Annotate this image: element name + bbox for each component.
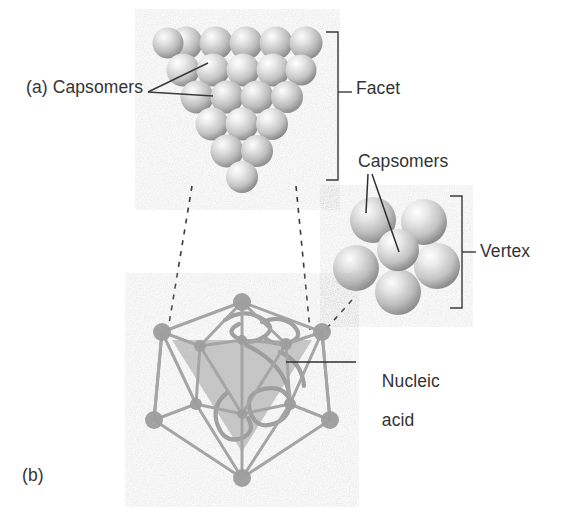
facet-capsomer-triangle [153, 27, 323, 194]
capsomers-facet-label: (a) Capsomers [26, 78, 143, 98]
nucleic-acid-label-line2: acid [382, 410, 415, 430]
facet-label: Facet [356, 79, 400, 99]
facet-bracket [326, 32, 352, 180]
vertex-capsomer-cluster [333, 197, 460, 315]
figure-canvas: (a) Capsomers Facet Capsomers Vertex Nuc… [0, 0, 566, 521]
vertex-label: Vertex [480, 242, 530, 262]
panel-b-label: (b) [22, 466, 44, 486]
capsomers-vertex-label: Capsomers [358, 152, 448, 172]
nucleic-acid-label: Nucleic acid [362, 352, 440, 450]
nucleic-acid-label-line1: Nucleic [382, 371, 440, 391]
